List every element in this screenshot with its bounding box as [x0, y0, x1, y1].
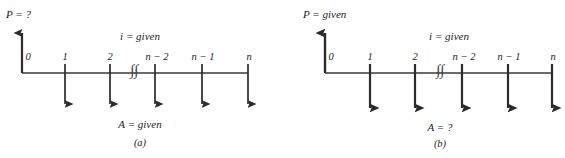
cash-flow-diagram-b: ∫∫ P = given i = given A = ? (b) 0 1 2 n…	[283, 0, 565, 158]
cash-flow-diagram-a: ∫∫ P = ? i = given A = given (a) 0 1 2 n…	[0, 0, 283, 158]
diagram-a-graphics	[0, 0, 283, 158]
axis-break-icon: ∫∫	[436, 63, 444, 78]
period-label-2: 2	[412, 52, 417, 63]
diagram-b-graphics	[283, 0, 565, 158]
period-label-n-minus-1: n − 1	[498, 52, 521, 63]
present-worth-label: P = given	[303, 9, 346, 20]
period-label-0: 0	[25, 52, 30, 63]
period-label-0: 0	[328, 52, 333, 63]
interest-rate-label: i = given	[120, 31, 160, 42]
annuity-label: A = ?	[428, 122, 453, 133]
period-label-n: n	[246, 52, 251, 63]
cash-flow-figure: ∫∫ P = ? i = given A = given (a) 0 1 2 n…	[0, 0, 565, 158]
annuity-label: A = given	[118, 119, 161, 130]
period-label-1: 1	[367, 52, 372, 63]
period-label-n-minus-1: n − 1	[192, 52, 215, 63]
period-label-n: n	[550, 52, 555, 63]
present-worth-label: P = ?	[6, 9, 31, 20]
interest-rate-label: i = given	[429, 31, 469, 42]
axis-break-icon: ∫∫	[130, 63, 138, 78]
panel-caption: (a)	[134, 138, 146, 149]
period-label-2: 2	[107, 52, 112, 63]
period-label-1: 1	[62, 52, 67, 63]
period-label-n-minus-2: n − 2	[146, 52, 169, 63]
panel-caption: (b)	[434, 139, 446, 150]
period-label-n-minus-2: n − 2	[453, 52, 476, 63]
